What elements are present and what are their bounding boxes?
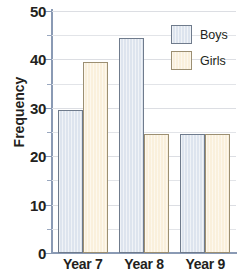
y-tick-label: 50 bbox=[6, 3, 46, 20]
x-tick-label: Year 8 bbox=[109, 256, 179, 272]
clipped-title-artifact bbox=[0, 0, 248, 1]
bar-girls-year-8 bbox=[144, 134, 169, 253]
bar-girls-year-7 bbox=[83, 62, 108, 253]
y-tick-label: 40 bbox=[6, 51, 46, 68]
x-tick-label: Year 9 bbox=[170, 256, 240, 272]
y-tick-major bbox=[45, 108, 52, 109]
legend-item-boys: Boys bbox=[171, 25, 241, 44]
legend-label-boys: Boys bbox=[200, 28, 228, 42]
gridline-major bbox=[52, 11, 236, 12]
y-tick-label: 30 bbox=[6, 99, 46, 116]
x-tick-label: Year 7 bbox=[48, 256, 118, 272]
y-tick-major bbox=[45, 11, 52, 12]
bar-chart: Frequency 01020304050 Year 7Year 8Year 9… bbox=[0, 0, 248, 276]
y-tick-major bbox=[45, 205, 52, 206]
y-tick-label: 0 bbox=[6, 245, 46, 262]
gridline-minor bbox=[52, 84, 236, 85]
legend-swatch-boys-icon bbox=[171, 25, 192, 44]
y-tick-major bbox=[45, 59, 52, 60]
bar-boys-year-7 bbox=[58, 110, 83, 253]
bar-girls-year-9 bbox=[205, 134, 230, 253]
legend-swatch-girls-icon bbox=[171, 51, 192, 70]
y-tick-label: 20 bbox=[6, 148, 46, 165]
legend-label-girls: Girls bbox=[200, 54, 226, 68]
y-tick-label: 10 bbox=[6, 196, 46, 213]
legend: Boys Girls bbox=[171, 25, 241, 77]
bar-boys-year-8 bbox=[119, 38, 144, 253]
y-tick-major bbox=[45, 253, 52, 254]
y-tick-major bbox=[45, 156, 52, 157]
gridline-major bbox=[52, 108, 236, 109]
legend-item-girls: Girls bbox=[171, 51, 241, 70]
bar-boys-year-9 bbox=[180, 134, 205, 253]
